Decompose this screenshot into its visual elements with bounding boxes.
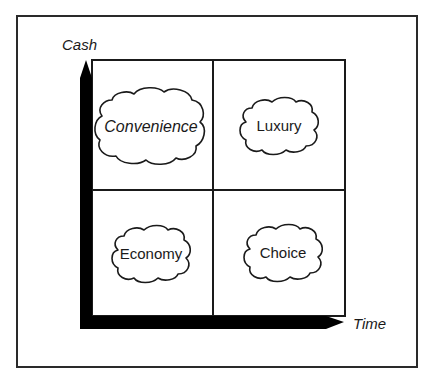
- x-axis-arrow-icon: [80, 316, 344, 329]
- x-axis-label: Time: [353, 315, 386, 332]
- y-axis-arrow-icon: [80, 60, 92, 328]
- y-axis-label: Cash: [62, 36, 97, 53]
- quadrant-label-choice: Choice: [260, 244, 307, 261]
- quadrant-label-convenience: Convenience: [104, 118, 197, 136]
- quadrant-label-economy: Economy: [120, 245, 183, 262]
- quadrant-label-luxury: Luxury: [256, 117, 301, 134]
